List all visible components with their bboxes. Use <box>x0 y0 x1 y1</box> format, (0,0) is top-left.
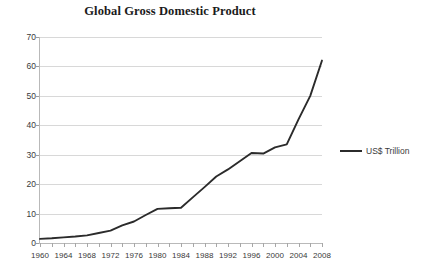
legend-label-us-trillion: US$ Trillion <box>366 146 409 156</box>
legend-swatch-us-trillion <box>340 150 362 152</box>
chart-container: Global Gross Domestic Product 0102030405… <box>0 0 430 279</box>
series-line-us-trillion <box>0 0 430 279</box>
data-line-us-trillion <box>40 61 322 239</box>
chart-legend: US$ Trillion <box>340 146 409 156</box>
